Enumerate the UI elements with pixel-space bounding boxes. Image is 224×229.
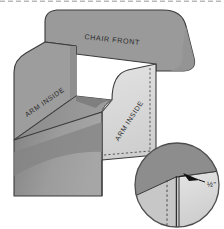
illustration-canvas: CHAIR FRONT ARM INSIDE ARM INSIDE <box>0 0 224 229</box>
arm-left-inner-shade <box>70 46 76 100</box>
arm-inside-right-panel <box>102 64 156 160</box>
chair-upholstery-diagram: CHAIR FRONT ARM INSIDE ARM INSIDE <box>0 0 224 229</box>
label-seam-allowance: ½" <box>207 181 217 188</box>
